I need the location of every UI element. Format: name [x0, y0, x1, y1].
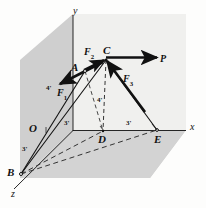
- force-label-F3: F3: [123, 74, 133, 87]
- force-label-F2: F2: [84, 47, 94, 60]
- force-label-P-base: P: [160, 53, 166, 64]
- dimension-label-OD: 3': [64, 120, 69, 127]
- point-dot-C: [104, 58, 107, 61]
- point-label-E: E: [154, 134, 161, 145]
- point-dot-A: [84, 70, 87, 73]
- dimension-label-OB: 3': [22, 146, 27, 153]
- force-diagram-figure: y x z O A C D E B F1 F2 F3 P 3' 3' 3' 4'…: [0, 0, 206, 208]
- diagram-canvas: [0, 0, 206, 208]
- point-label-O: O: [29, 123, 37, 134]
- point-label-A: A: [71, 62, 78, 73]
- xy-plane-shading: [73, 14, 186, 130]
- force-label-F2-sub: 2: [91, 53, 94, 60]
- force-label-F3-base: F: [123, 73, 130, 84]
- axis-label-y: y: [73, 6, 77, 16]
- point-label-B: B: [7, 167, 14, 178]
- dimension-label-CD: 4': [97, 97, 102, 104]
- force-label-F1: F1: [57, 88, 67, 101]
- force-label-F1-base: F: [57, 87, 64, 98]
- point-dot-B: [20, 173, 23, 176]
- dimension-label-AO: 4': [46, 85, 51, 92]
- force-label-P: P: [160, 54, 166, 64]
- dimension-label-DE: 3': [126, 120, 131, 127]
- force-label-F1-sub: 1: [64, 94, 67, 101]
- force-label-F2-base: F: [84, 46, 91, 57]
- point-label-D: D: [98, 134, 106, 145]
- axis-label-x: x: [190, 122, 194, 132]
- axis-label-z: z: [11, 189, 15, 199]
- point-label-C: C: [103, 45, 110, 56]
- force-label-F3-sub: 3: [130, 80, 133, 87]
